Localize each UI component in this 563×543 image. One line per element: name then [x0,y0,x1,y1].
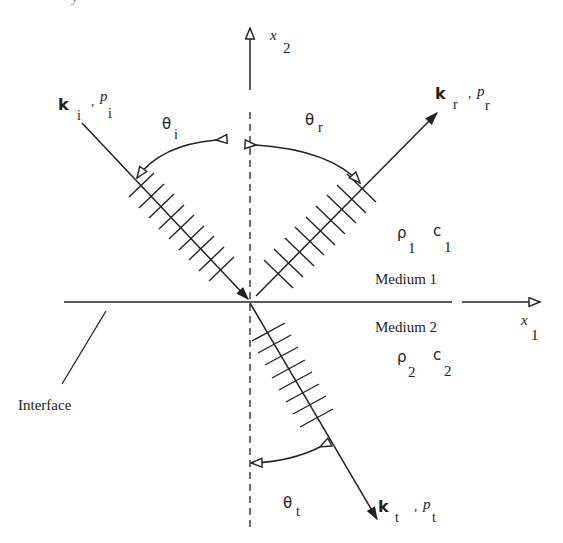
reflected-separator: , [468,86,471,99]
incident-k-label: k [58,97,69,113]
x2-axis-label: x [270,28,277,43]
rho1-subscript: 1 [408,240,416,257]
theta-r-arc [256,145,360,183]
transmitted-p-label: p [423,497,431,512]
c2-subscript: 2 [444,363,452,380]
x1-axis-subscript: 1 [531,327,539,344]
incident-p-subscript: i [108,106,112,122]
reflected-k-label: k [435,86,446,102]
incident-p-label: p [100,89,108,104]
transmitted-p-subscript: t [432,510,436,526]
medium1-label: Medium 1 [375,272,437,287]
transmitted-ray [250,303,377,519]
interface-label: Interface [18,398,71,413]
interface-pointer-line [62,311,106,384]
reflected-p-label: p [477,84,485,99]
x1-axis-label: x [521,313,528,328]
theta-t-label: θ [283,496,292,511]
medium2-label: Medium 2 [375,320,437,335]
rho1-label: ρ [397,226,407,241]
c1-subscript: 1 [444,239,452,256]
theta-t-subscript: t [296,504,300,520]
transmitted-k-subscript: t [395,510,399,526]
incident-separator: , [91,94,94,107]
rho2-label: ρ [397,350,407,365]
incident-k-subscript: i [77,108,81,124]
theta-t-arc [251,447,320,463]
transmitted-k-label: k [378,499,389,515]
theta-i-subscript: i [174,127,178,143]
c2-label: c [433,348,441,363]
cropped-caption-fragment: y [72,0,78,4]
rho2-subscript: 2 [408,364,416,381]
reflected-p-subscript: r [485,98,490,114]
reflected-ray [256,113,437,296]
theta-i-label: θ [162,117,171,132]
theta-r-subscript: r [318,120,323,136]
c1-label: c [433,224,441,239]
reflected-k-subscript: r [453,97,458,113]
x2-axis-subscript: 2 [283,40,291,57]
transmitted-separator: , [414,499,417,512]
incident-ray [82,123,248,299]
theta-i-arc [137,140,216,178]
reflection-refraction-diagram [0,0,563,543]
theta-r-label: θ [305,113,314,128]
